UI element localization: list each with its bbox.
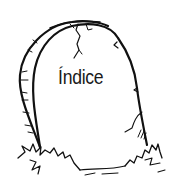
tombstone-label: Índice xyxy=(58,66,120,89)
tombstone-icon xyxy=(0,0,179,195)
tombstone-illustration: Índice xyxy=(0,0,179,195)
